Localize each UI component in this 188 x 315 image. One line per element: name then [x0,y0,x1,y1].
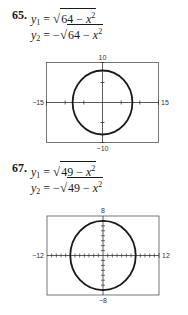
radicand: 49 − x2 [67,177,103,195]
sqrt-icon: √ [60,27,67,42]
problem-65: 65. y1 = √64 − x2 y2 = −√64 − x2 [12,8,182,44]
xmax-label: 15 [161,99,169,106]
xmin-label: −15 [32,99,44,106]
graph-67-svg: 8 −8 −12 12 [0,204,188,315]
equation-y2: y2 = −√64 − x2 [31,24,103,46]
exponent: 2 [98,180,102,189]
subscript: 2 [36,34,40,43]
minus: − [83,28,90,42]
radicand: 64 − x2 [67,24,103,42]
exponent: 2 [98,27,102,36]
sqrt-icon: √ [60,180,67,195]
xmin-label: −12 [32,252,44,259]
xmax-label: 12 [162,252,170,259]
minus: − [83,181,90,195]
problem-number: 67. [12,161,27,175]
graph-65-svg: 10 −10 −15 15 [0,50,188,160]
equals: = [43,181,50,195]
subscript: 2 [36,187,40,196]
negative-sign: − [53,28,60,42]
problem-67: 67. y1 = √49 − x2 y2 = −√49 − x2 [12,161,182,197]
ymin-label: −10 [97,145,109,152]
problem-number: 65. [12,8,27,22]
const: 64 [68,28,80,42]
equals: = [43,28,50,42]
negative-sign: − [53,181,60,195]
graph-67: 8 −8 −12 12 [0,204,188,315]
exponent: 2 [91,164,95,173]
equation-y2: y2 = −√49 − x2 [31,177,103,199]
ymax-label: 10 [99,54,107,61]
graph-65: 10 −10 −15 15 [0,50,188,160]
ymax-label: 8 [101,207,105,214]
const: 49 [68,181,80,195]
ymin-label: −8 [99,297,107,304]
exponent: 2 [91,11,95,20]
